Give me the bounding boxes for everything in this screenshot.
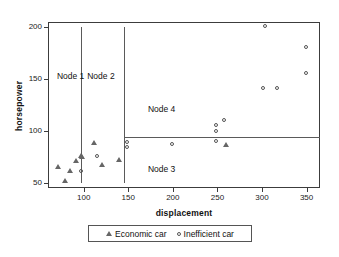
x-axis-tick-label: 300 (253, 193, 271, 202)
x-axis-tick-mark (84, 188, 85, 192)
data-point-economic-car (116, 157, 122, 162)
circle-marker-icon (125, 145, 129, 149)
circle-marker-icon (214, 129, 218, 133)
circle-marker-icon (214, 123, 218, 127)
partition-split-line (124, 27, 125, 183)
triangle-marker-icon (116, 157, 122, 162)
circle-marker-icon (304, 71, 308, 75)
triangle-marker-icon (55, 164, 61, 169)
x-axis-tick-mark (307, 188, 308, 192)
data-point-inefficient-car (222, 118, 226, 122)
x-axis-tick-mark (128, 188, 129, 192)
y-axis-tick-label: 150 (20, 74, 42, 83)
triangle-marker-icon (79, 154, 85, 159)
data-point-inefficient-car (261, 86, 265, 90)
circle-marker-icon (261, 86, 265, 90)
triangle-marker-icon (67, 168, 73, 173)
data-point-inefficient-car (95, 154, 99, 158)
circle-marker-icon (222, 118, 226, 122)
x-axis-tick-label: 100 (75, 193, 93, 202)
circle-marker-icon (170, 142, 174, 146)
data-point-inefficient-car (214, 139, 218, 143)
chart-container: horsepower displacement Economic carInef… (0, 0, 339, 257)
partition-split-line (81, 27, 82, 183)
circle-marker-icon (304, 45, 308, 49)
y-axis-tick-mark (44, 79, 48, 80)
circle-marker-icon (275, 86, 279, 90)
node-annotation-label: Node 3 (148, 164, 175, 174)
legend-item: Economic car (106, 229, 167, 239)
node-annotation-label: Node 1 (57, 71, 84, 81)
x-axis-tick-label: 200 (164, 193, 182, 202)
x-axis-tick-mark (173, 188, 174, 192)
circle-marker-icon (214, 139, 218, 143)
data-point-economic-car (223, 142, 229, 147)
y-axis-tick-label: 50 (20, 178, 42, 187)
y-axis-tick-label: 100 (20, 126, 42, 135)
data-point-economic-car (79, 154, 85, 159)
legend-label: Inefficient car (184, 229, 234, 239)
data-point-inefficient-car (79, 169, 83, 173)
data-point-economic-car (73, 158, 79, 163)
data-point-inefficient-car (214, 123, 218, 127)
x-axis-tick-mark (217, 188, 218, 192)
data-point-economic-car (91, 140, 97, 145)
data-point-inefficient-car (263, 24, 267, 28)
legend-item: Inefficient car (177, 229, 234, 239)
data-point-inefficient-car (275, 86, 279, 90)
y-axis-tick-mark (44, 183, 48, 184)
triangle-marker-icon (73, 158, 79, 163)
partition-split-line (124, 137, 320, 138)
node-annotation-label: Node 2 (87, 71, 114, 81)
triangle-marker-icon (91, 140, 97, 145)
data-point-economic-car (67, 168, 73, 173)
y-axis-title: horsepower (14, 81, 24, 131)
data-point-inefficient-car (214, 129, 218, 133)
data-point-economic-car (99, 162, 105, 167)
triangle-marker-icon (106, 231, 112, 236)
chart-legend: Economic carInefficient car (88, 225, 252, 242)
circle-marker-icon (79, 169, 83, 173)
x-axis-tick-mark (262, 188, 263, 192)
x-axis-title: displacement (152, 208, 216, 218)
triangle-marker-icon (223, 142, 229, 147)
circle-marker-icon (263, 24, 267, 28)
circle-marker-icon (95, 154, 99, 158)
data-point-economic-car (55, 164, 61, 169)
data-point-inefficient-car (304, 45, 308, 49)
node-annotation-label: Node 4 (148, 104, 175, 114)
data-point-inefficient-car (125, 145, 129, 149)
y-axis-tick-mark (44, 131, 48, 132)
x-axis-tick-label: 250 (208, 193, 226, 202)
legend-label: Economic car (115, 229, 167, 239)
data-point-economic-car (62, 178, 68, 183)
plot-area (48, 22, 320, 188)
y-axis-tick-mark (44, 27, 48, 28)
data-point-inefficient-car (304, 71, 308, 75)
x-axis-tick-label: 150 (119, 193, 137, 202)
data-point-inefficient-car (170, 142, 174, 146)
triangle-marker-icon (62, 178, 68, 183)
x-axis-tick-label: 350 (298, 193, 316, 202)
triangle-marker-icon (99, 162, 105, 167)
y-axis-tick-label: 200 (20, 22, 42, 31)
circle-marker-icon (177, 232, 181, 236)
